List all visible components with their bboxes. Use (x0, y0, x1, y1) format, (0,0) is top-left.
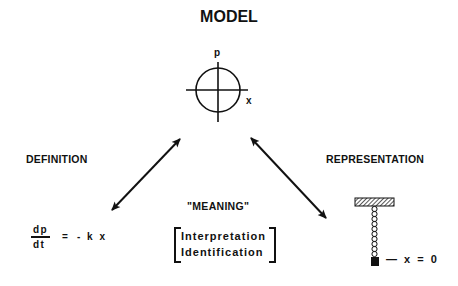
phase-circle-icon (186, 62, 248, 122)
equilibrium-label: — x = 0 (386, 253, 439, 265)
x-axis-label: x (246, 95, 252, 106)
equation-rhs: - k x (77, 231, 107, 242)
equation-numerator: dp (33, 224, 48, 235)
representation-label: REPRESENTATION (326, 153, 424, 165)
definition-label: DEFINITION (26, 153, 88, 165)
p-axis-label: p (214, 47, 220, 58)
meaning-bracket: Interpretation Identification (174, 227, 276, 263)
equation-denominator: dt (33, 239, 45, 250)
model-title: MODEL (0, 8, 458, 26)
arrow-model-definition (112, 139, 180, 210)
meaning-item-interpretation: Interpretation (181, 230, 266, 242)
fraction-bar (31, 236, 50, 238)
equation-equals: = (62, 231, 68, 242)
meaning-item-identification: Identification (181, 246, 263, 258)
arrow-model-representation (251, 138, 326, 218)
meaning-label: "MEANING" (187, 200, 249, 212)
